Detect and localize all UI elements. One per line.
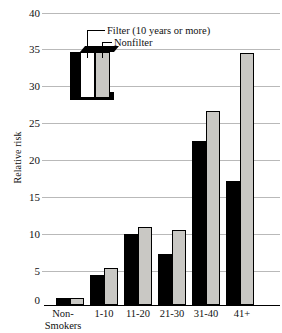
- legend-leader-nonfilter-vertical: [102, 42, 103, 58]
- legend-label-nonfilter: Nonfilter: [114, 37, 153, 48]
- legend-swatch-filter: [80, 52, 95, 98]
- bar-filter-1-10: [90, 275, 104, 305]
- bar-nonfilter-31-40: [206, 111, 220, 305]
- legend-swatch-side: [70, 52, 80, 98]
- legend-label-filter: Filter (10 years or more): [107, 25, 210, 36]
- bar-nonfilter-21-30: [172, 230, 186, 305]
- legend-sample-swatch: [70, 46, 114, 98]
- legend-leader-filter-vertical: [87, 30, 88, 58]
- bar-nonfilter-1-10: [104, 268, 118, 305]
- legend-leader-nonfilter-horizontal: [102, 42, 112, 43]
- legend-leader-filter-horizontal: [87, 30, 105, 31]
- bar-filter-21-30: [158, 254, 172, 305]
- bar-filter-31-40: [192, 141, 206, 305]
- plot-area: [0, 0, 282, 333]
- legend-swatch-nonfilter: [95, 52, 110, 98]
- bar-nonfilter-non-smokers: [70, 298, 84, 305]
- bar-filter-41-plus: [226, 181, 240, 305]
- relative-risk-bar-chart: Relative risk 40 35 30 25 20 15 10 5 0: [0, 0, 282, 333]
- bar-filter-11-20: [124, 234, 138, 305]
- x-label-41-plus: 41+: [214, 308, 270, 320]
- bar-nonfilter-41-plus: [240, 53, 254, 305]
- bar-filter-non-smokers: [56, 298, 70, 305]
- bar-nonfilter-11-20: [138, 227, 152, 305]
